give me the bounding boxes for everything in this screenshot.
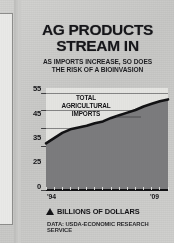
chart-card: AG PRODUCTS STREAM IN AS IMPORTS INCREAS… bbox=[21, 0, 174, 243]
series-label-line-2: AGRICULTURAL bbox=[49, 102, 123, 110]
page-gutter bbox=[14, 0, 21, 243]
unit-label: BILLIONS OF DOLLARS bbox=[57, 207, 140, 216]
page-title-line-1: AG PRODUCTS bbox=[21, 22, 174, 38]
series-label-line-1: TOTAL bbox=[49, 94, 123, 102]
y-axis-tick-35: 35 bbox=[23, 133, 41, 142]
subtitle-line-2: THE RISK OF A BIOINVASION bbox=[27, 66, 168, 74]
y-axis-tick-25: 25 bbox=[23, 157, 41, 166]
adjacent-page-panel bbox=[0, 13, 13, 225]
subtitle-line-1: AS IMPORTS INCREASE, SO DOES bbox=[27, 58, 168, 66]
y-axis-tick-0: 0 bbox=[23, 182, 41, 191]
y-axis-tick-45: 45 bbox=[23, 109, 41, 118]
series-label-line-3: IMPORTS bbox=[49, 110, 123, 118]
x-axis-tick-start: '94 bbox=[47, 193, 56, 200]
unit-row: BILLIONS OF DOLLARS bbox=[46, 207, 172, 216]
chart-plot-area: 55 45 35 25 0 TOTAL AGRICULTURAL IMPORTS… bbox=[21, 82, 174, 194]
source-credit: DATA: USDA-ECONOMIC RESEARCH SERVICE bbox=[47, 221, 174, 233]
y-axis-tick-55: 55 bbox=[23, 84, 41, 93]
x-axis-tick-end: '09 bbox=[150, 193, 159, 200]
page-title-line-2: STREAM IN bbox=[21, 38, 174, 54]
triangle-up-icon bbox=[46, 208, 54, 215]
infographic-page: AG PRODUCTS STREAM IN AS IMPORTS INCREAS… bbox=[0, 0, 174, 243]
